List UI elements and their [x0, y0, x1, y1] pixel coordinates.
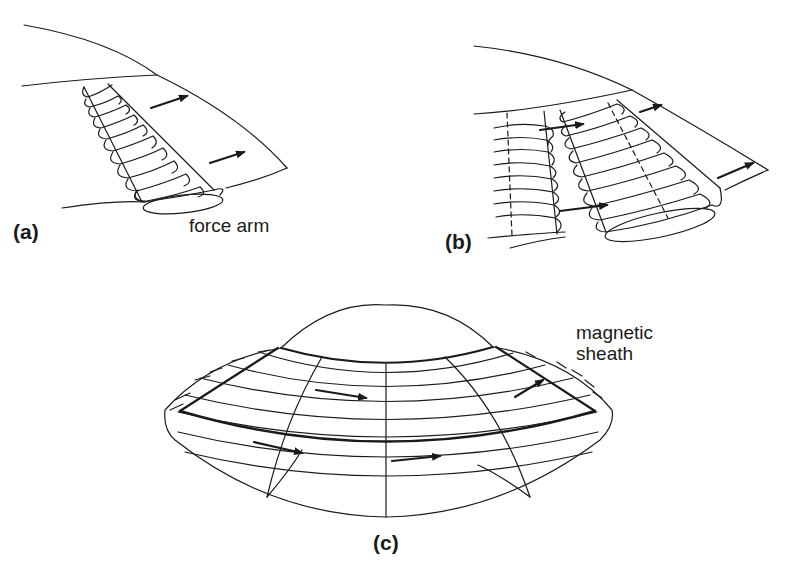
- magnetic-sheath-label-line-2: sheath: [576, 343, 653, 364]
- force-arrow: [560, 205, 607, 211]
- panel-label-c: (c): [373, 531, 399, 555]
- panel-c-drawing: [165, 305, 613, 517]
- force-arrow: [210, 152, 244, 163]
- panel-b-drawing: [474, 46, 768, 248]
- force-arm-coil: [83, 85, 224, 217]
- diagram-canvas: [0, 0, 791, 572]
- panel-a-drawing: [22, 25, 287, 217]
- panel-label-b: (b): [445, 230, 472, 254]
- force-arrow: [718, 163, 753, 178]
- force-arrow: [151, 96, 187, 108]
- force-arrow: [316, 390, 366, 398]
- magnetic-sheath-label: magnetic sheath: [576, 322, 653, 364]
- magnetic-sheath-label-line-1: magnetic: [576, 322, 653, 343]
- force-arrow: [640, 105, 661, 112]
- right-coil: [560, 100, 721, 248]
- left-coil: [494, 111, 561, 236]
- force-arm-label: force arm: [189, 215, 269, 236]
- panel-label-a: (a): [13, 220, 39, 244]
- force-arrow: [515, 380, 543, 397]
